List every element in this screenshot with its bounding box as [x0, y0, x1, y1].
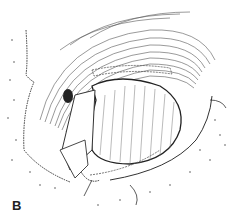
anatomical-illustration: B: [0, 0, 232, 220]
dark-tissue-mark: [63, 89, 73, 103]
panel-label: B: [12, 199, 21, 212]
central-opening: [92, 79, 182, 164]
illustration-drawing: [0, 0, 232, 220]
